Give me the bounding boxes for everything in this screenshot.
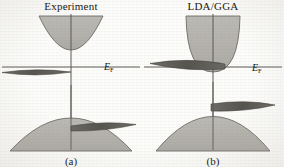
panel-b: LDA/GGA xyxy=(142,0,284,167)
panel-b-flat-band-lower-right xyxy=(211,102,275,111)
panel-b-plot xyxy=(142,0,284,167)
panel-a: Experiment xyxy=(0,0,142,167)
band-structure-figure: Experiment xyxy=(0,0,284,167)
panel-b-title: LDA/GGA xyxy=(142,0,284,12)
panel-b-caption: (b) xyxy=(142,155,284,167)
panel-b-fermi-label-sub: F xyxy=(258,67,262,74)
panel-a-caption: (a) xyxy=(0,155,142,167)
panel-a-title: Experiment xyxy=(0,0,142,12)
panel-a-plot xyxy=(0,0,142,167)
panel-a-fermi-label-sub: F xyxy=(110,66,114,73)
panel-b-fermi-label: EF xyxy=(252,62,262,73)
panel-a-flat-band-upper-left xyxy=(2,70,71,75)
panel-a-fermi-label: EF xyxy=(104,61,114,72)
